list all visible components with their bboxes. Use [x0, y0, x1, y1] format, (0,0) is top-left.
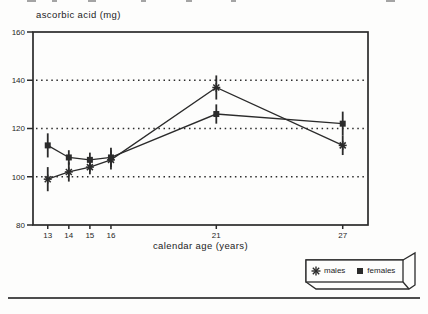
svg-text:14: 14 [64, 231, 73, 240]
svg-text:140: 140 [12, 76, 26, 85]
svg-text:21: 21 [212, 231, 221, 240]
legend-label-females: females [367, 266, 395, 275]
females-square-marker-icon [356, 267, 364, 275]
males-asterisk-marker-icon [311, 266, 321, 276]
legend-items: males females [311, 264, 395, 277]
svg-text:13: 13 [43, 231, 52, 240]
svg-text:16: 16 [107, 231, 116, 240]
svg-text:27: 27 [338, 231, 347, 240]
svg-text:160: 160 [12, 28, 26, 37]
page-divider-rule [8, 297, 420, 299]
legend-box: males females [298, 246, 426, 296]
svg-text:100: 100 [12, 173, 26, 182]
svg-text:80: 80 [16, 221, 25, 230]
svg-text:15: 15 [85, 231, 94, 240]
legend-label-males: males [324, 266, 345, 275]
svg-text:120: 120 [12, 124, 26, 133]
figure-page: ascorbic acid (mg) 801001201401601314151… [0, 0, 428, 314]
